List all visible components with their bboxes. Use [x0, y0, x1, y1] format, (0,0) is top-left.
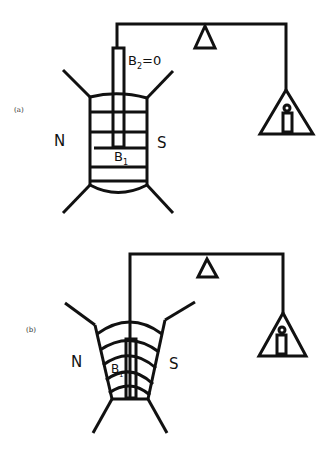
weight-hook-icon [279, 327, 285, 333]
pole-south-label: S [169, 355, 179, 373]
weight-pan [259, 313, 306, 356]
panel-b-label: (b) [26, 326, 36, 334]
panel-a: (a) N [14, 24, 313, 213]
pole-north-label: N [54, 132, 65, 150]
svg-text:1: 1 [123, 158, 128, 167]
pole-north-label: N [71, 353, 82, 371]
gouy-balance-diagram: (a) N [0, 0, 331, 454]
svg-text:B: B [128, 53, 137, 68]
weight-icon [283, 113, 292, 132]
svg-text:B: B [114, 149, 123, 164]
weight-hook-icon [284, 105, 290, 111]
fulcrum-icon [195, 26, 215, 48]
svg-text:B: B [111, 362, 119, 376]
fulcrum-icon [198, 259, 217, 277]
panel-a-label: (a) [14, 106, 24, 114]
weight-pan [260, 90, 313, 134]
field-b2-label: B 2 =0 [128, 53, 161, 71]
svg-text:1: 1 [119, 371, 123, 379]
panel-b: (b) N S B 1 [26, 254, 306, 433]
svg-text:=0: =0 [142, 53, 161, 68]
weight-icon [277, 335, 286, 354]
pole-south-label: S [157, 134, 167, 152]
field-b1-label: B 1 [114, 149, 128, 167]
